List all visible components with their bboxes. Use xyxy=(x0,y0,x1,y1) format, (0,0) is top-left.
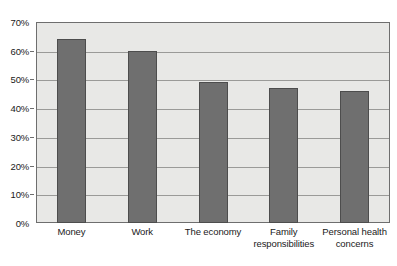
y-tick-mark xyxy=(30,51,34,52)
x-tick-label: Money xyxy=(36,226,107,238)
y-tick-mark xyxy=(30,166,34,167)
bars-group xyxy=(36,22,390,223)
y-tick-mark xyxy=(30,108,34,109)
y-tick-mark xyxy=(30,194,34,195)
y-tick-mark xyxy=(30,79,34,80)
y-tick-label: 40% xyxy=(11,103,29,114)
y-tick-mark xyxy=(30,137,34,138)
y-tick-label: 20% xyxy=(11,160,29,171)
y-tick-label: 50% xyxy=(11,74,29,85)
x-axis: MoneyWorkThe economyFamily responsibilit… xyxy=(36,226,390,264)
x-tick-label: Personal health concerns xyxy=(319,226,390,249)
y-tick-label: 60% xyxy=(11,45,29,56)
x-tick-label: Family responsibilities xyxy=(248,226,319,249)
y-tick-label: 30% xyxy=(11,131,29,142)
y-tick-label: 0% xyxy=(16,218,29,229)
bar xyxy=(128,51,157,223)
x-tick-label: The economy xyxy=(178,226,249,238)
bar-chart-figure: 0%10%20%30%40%50%60%70% MoneyWorkThe eco… xyxy=(0,0,397,266)
bar xyxy=(269,88,298,223)
y-tick-label: 70% xyxy=(11,17,29,28)
bar xyxy=(199,82,228,223)
y-tick-label: 10% xyxy=(11,189,29,200)
bar xyxy=(340,91,369,223)
y-axis: 0%10%20%30%40%50%60%70% xyxy=(0,22,34,223)
bar xyxy=(57,39,86,223)
x-tick-label: Work xyxy=(107,226,178,238)
